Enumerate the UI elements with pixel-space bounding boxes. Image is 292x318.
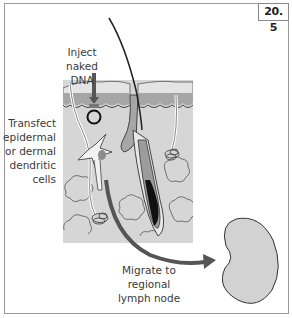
- label-line: lymph node: [108, 291, 190, 305]
- label-line: Inject naked: [52, 45, 112, 73]
- label-line: Migrate to regional: [108, 263, 190, 291]
- skin-cross-section: [63, 80, 196, 243]
- label-line: DNA: [52, 73, 112, 87]
- label-inject-dna: Inject naked DNA: [52, 45, 112, 87]
- label-migrate-lymph-node: Migrate to regional lymph node: [108, 263, 190, 305]
- label-line: epidermal: [0, 130, 56, 144]
- label-line: dendritic: [0, 158, 56, 172]
- label-line: Transfect: [0, 116, 56, 130]
- label-line: or dermal: [0, 144, 56, 158]
- label-line: cells: [0, 172, 56, 186]
- label-transfect-cells: Transfect epidermal or dermal dendritic …: [0, 116, 56, 186]
- lymph-node: [222, 218, 278, 303]
